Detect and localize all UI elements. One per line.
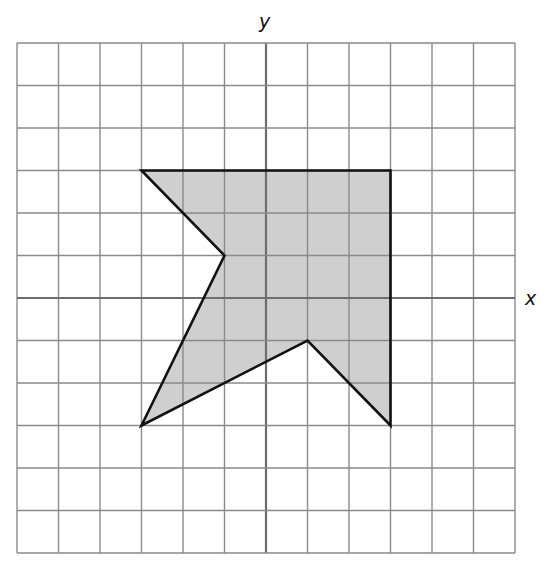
x-axis-label: x xyxy=(525,287,536,309)
coordinate-grid xyxy=(0,0,548,562)
y-axis-label: y xyxy=(259,10,270,32)
